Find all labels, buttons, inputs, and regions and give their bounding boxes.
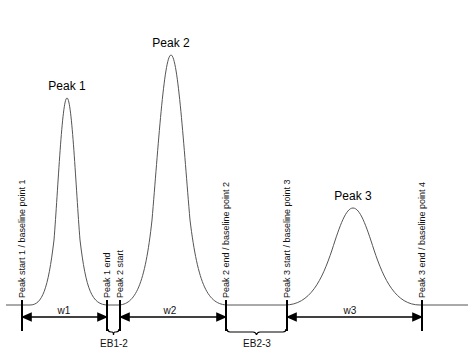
label-w3: w3 <box>343 305 357 316</box>
label-peak-3-start: Peak 3 start / baseline point 3 <box>282 179 292 298</box>
label-peak-2-start: Peak 2 start <box>115 249 125 298</box>
label-peak-1-end: Peak 1 end <box>102 252 112 298</box>
label-peak-2: Peak 2 <box>152 36 190 50</box>
label-w1: w1 <box>57 305 71 316</box>
label-peak-1: Peak 1 <box>48 79 86 93</box>
chromatogram-diagram: w1 w2 w3 EB1-2 EB2-3 Peak 1 Peak 2 Peak … <box>0 0 471 358</box>
label-peak-start-1: Peak start 1 / baseline point 1 <box>17 179 27 298</box>
width-arrows <box>23 314 421 321</box>
label-peak-3-end: Peak 3 end / baseline point 4 <box>417 182 427 298</box>
bracket-eb1-2 <box>108 329 119 335</box>
label-eb1-2: EB1-2 <box>100 338 128 349</box>
label-peak-2-end: Peak 2 end / baseline point 2 <box>221 182 231 298</box>
label-eb2-3: EB2-3 <box>243 338 271 349</box>
label-peak-3: Peak 3 <box>334 189 372 203</box>
label-w2: w2 <box>163 305 177 316</box>
bracket-eb2-3 <box>227 329 286 335</box>
